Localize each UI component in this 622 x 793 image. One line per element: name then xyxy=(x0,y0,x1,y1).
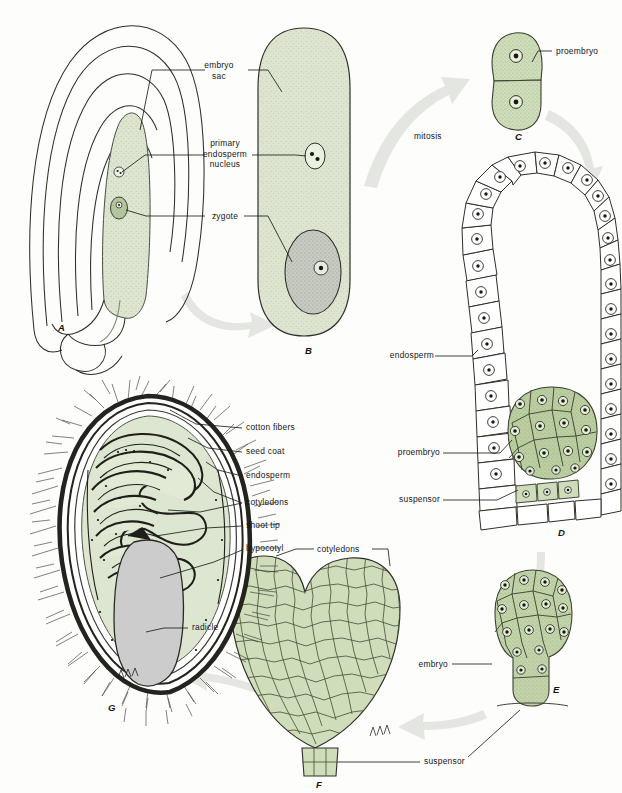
label-proembryo-c: proembryo xyxy=(556,46,598,57)
leader-cotton-fibers xyxy=(170,410,242,428)
label-zygote: zygote xyxy=(206,211,244,222)
label-endosperm-g: endosperm xyxy=(246,470,290,481)
label-primary-endosperm-nucleus: primaryendospermnucleus xyxy=(196,138,254,170)
leader-lines-layer xyxy=(0,0,622,793)
label-mitosis: mitosis xyxy=(414,131,442,141)
leader-cotyledons-F2 xyxy=(372,549,390,566)
label-proembryo-d: proembryo xyxy=(386,447,440,458)
leader-hypocotyl-G xyxy=(160,550,242,578)
label-radicle: radicle xyxy=(192,622,218,633)
leader-seed-coat xyxy=(188,438,242,452)
leader-proembryo-D xyxy=(443,440,512,453)
leader-cotyledons-G1 xyxy=(198,478,242,503)
leader-zygote-A xyxy=(126,210,205,216)
label-cotton-fibers: cotton fibers xyxy=(246,422,295,433)
diagram-canvas: embryosac primaryendospermnucleus zygote… xyxy=(0,0,622,793)
stage-letter-D: D xyxy=(558,527,565,538)
stage-letter-E: E xyxy=(553,684,560,695)
label-cotyledons-g: cotyledons xyxy=(246,497,289,508)
stage-letter-F: F xyxy=(316,779,322,790)
leader-pen-B xyxy=(252,155,306,156)
stage-letter-B: B xyxy=(305,345,312,356)
leader-proembryo-C xyxy=(532,51,552,62)
leader-suspensor-D xyxy=(443,490,518,500)
leader-endosperm-D xyxy=(435,350,478,356)
leader-radicle xyxy=(146,628,188,632)
stage-letter-C: C xyxy=(515,131,522,142)
leader-suspensor-E xyxy=(468,710,520,757)
label-endosperm-d: endosperm xyxy=(380,350,434,361)
label-hypocotyl: hypocotyl xyxy=(246,543,284,554)
label-shoot-tip: shoot tip xyxy=(246,520,280,531)
label-seed-coat: seed coat xyxy=(246,446,285,457)
leader-pen-A xyxy=(122,155,204,172)
leader-zygote-B xyxy=(244,216,292,262)
label-suspensor-f: suspensor xyxy=(424,756,465,767)
label-embryo-sac: embryosac xyxy=(196,60,242,81)
leader-shoot-tip xyxy=(156,526,242,536)
stage-letter-G: G xyxy=(108,702,116,713)
leader-endosperm-G xyxy=(206,462,242,476)
label-embryo-e: embryo xyxy=(404,659,448,670)
label-suspensor-d: suspensor xyxy=(386,494,440,505)
label-cotyledons-f: cotyledons xyxy=(317,544,360,555)
stage-letter-A: A xyxy=(58,322,65,333)
leader-embryo-sac-B xyxy=(248,70,282,92)
leader-cotyledons-G2 xyxy=(168,503,242,512)
